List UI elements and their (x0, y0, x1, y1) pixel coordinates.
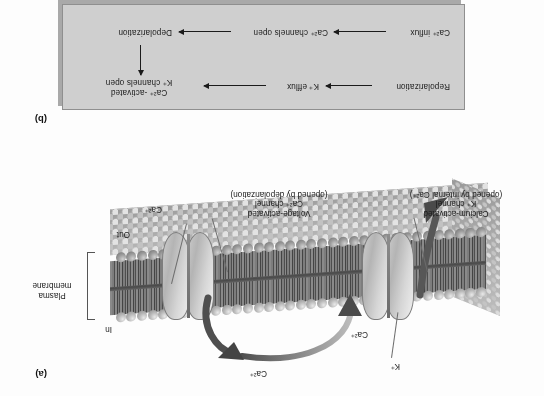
label-ca-channel-line1: Voltage-activated (190, 208, 368, 218)
label-ion-ca-outside-top: Ca²⁺ (250, 368, 267, 378)
plasma-membrane-bracket (87, 252, 95, 320)
label-plasma-membrane-line2: membrane (16, 281, 88, 291)
label-side-out: Out (117, 229, 130, 239)
label-k-channel-line2: K⁺ channel (368, 199, 544, 209)
flow-depolarization: Depolarization (118, 28, 172, 38)
label-ca-channel-line2: Ca²⁺ channel (190, 199, 368, 209)
label-side-in: In (105, 324, 112, 334)
flow-ca-activated-k-channels: Ca²⁺ -activated K⁺ channels open (80, 78, 198, 97)
label-calcium-activated-k-channel: Calcium-activated K⁺ channel (opened by … (368, 189, 544, 218)
ca-flux-curved-arrow (164, 288, 384, 368)
panel-b-box: Repolarization K⁺ efflux Ca²⁺ -activated… (62, 4, 465, 110)
figure-page: Repolarization K⁺ efflux Ca²⁺ -activated… (0, 0, 544, 396)
arrow-to-ca-influx (334, 31, 386, 32)
flow-ca-activated-k-channels-line1: Ca²⁺ -activated (80, 88, 198, 98)
panel-b: Repolarization K⁺ efflux Ca²⁺ -activated… (58, 0, 465, 110)
flow-ca-influx: Ca²⁺ influx (410, 28, 450, 38)
label-k-channel-line3: (opened by internal Ca²⁺) (368, 189, 544, 199)
panel-a-tag: (a) (35, 369, 47, 380)
arrow-to-ca-channels-open (179, 31, 231, 32)
label-plasma-membrane-line1: Plasma (16, 290, 88, 300)
label-ion-ca-outside: Ca²⁺ (145, 204, 162, 214)
flow-k-efflux: K⁺ efflux (287, 82, 319, 92)
label-k-channel-line1: Calcium-activated (368, 208, 544, 218)
label-ion-k: K⁺ (391, 361, 400, 371)
arrow-to-k-efflux (204, 85, 266, 86)
label-plasma-membrane: Plasma membrane (16, 281, 88, 300)
arrow-influx-to-k-channels (140, 45, 141, 75)
flow-ca-activated-k-channels-line2: K⁺ channels open (80, 78, 198, 88)
label-ion-ca-near-k-channel: Ca²⁺ (351, 329, 368, 339)
flow-repolarization: Repolarization (396, 82, 450, 92)
label-ca-channel-line3: (opened by depolarization) (190, 189, 368, 199)
panel-a: (a) (0, 110, 544, 396)
flow-ca-channels-open: Ca²⁺ channels open (253, 28, 328, 38)
label-voltage-activated-ca-channel: Voltage-activated Ca²⁺ channel (opened b… (190, 189, 368, 218)
arrow-to-repolarization (326, 85, 372, 86)
